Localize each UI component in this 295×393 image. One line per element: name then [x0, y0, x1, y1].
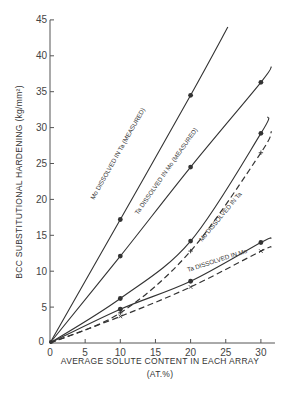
y-tick-label: 25 [36, 158, 48, 169]
y-tick-label: 15 [36, 230, 48, 241]
x-axis-unit: (AT.%) [147, 369, 174, 379]
series-line-5 [50, 247, 271, 343]
series-line-4 [50, 131, 271, 343]
data-point-dot [188, 93, 193, 98]
data-point-dot [259, 131, 264, 136]
series-line-1 [50, 67, 271, 343]
y-tick-label: 5 [41, 302, 47, 313]
y-axis-title: BCC SUBSTITUTIONAL HARDENING (kg/mm²) [14, 85, 24, 279]
x-axis-title: AVERAGE SOLUTE CONTENT IN EACH ARRAY [61, 356, 259, 366]
data-point-dot [118, 296, 123, 301]
label-ta-in-mo-measured: Ta DISSOLVED IN Mo (MEASURED) [133, 126, 199, 216]
data-point-dot [188, 239, 193, 244]
y-tick-label: 0 [38, 336, 44, 347]
y-tick-label: 10 [36, 266, 48, 277]
data-point-dot [188, 279, 193, 284]
data-point-dot [118, 217, 123, 222]
y-tick-label: 45 [36, 14, 48, 25]
data-point-dot [188, 165, 193, 170]
label-mo-in-ta: Mo DISSOLVED IN Ta [197, 190, 243, 243]
data-point-dot [259, 80, 264, 85]
y-tick-label: 20 [36, 194, 48, 205]
label-ta-in-mo: Ta DISSOLVED IN Mo [186, 247, 248, 273]
origin-dot [49, 340, 53, 344]
hardening-chart: 510152025303540450051015202530 AVERAGE S… [0, 0, 295, 393]
data-point-dot [118, 254, 123, 259]
y-tick-label: 30 [36, 122, 48, 133]
series-group [49, 27, 271, 344]
y-tick-label: 35 [36, 86, 48, 97]
series-line-0 [50, 27, 228, 343]
y-tick-label: 40 [36, 50, 48, 61]
x-tick-label: 0 [47, 347, 53, 358]
data-point-dot [259, 240, 264, 245]
